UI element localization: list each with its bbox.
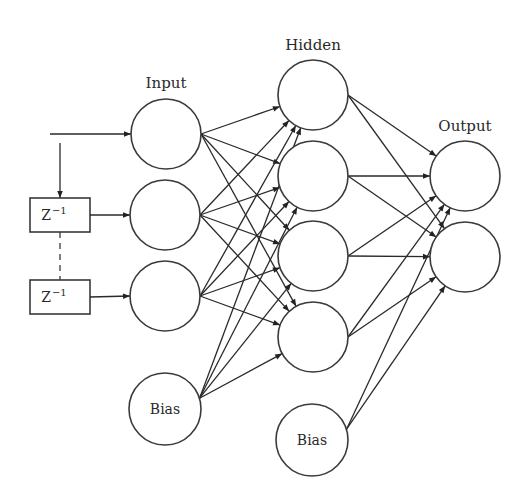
edge-in2-to-h4 [200,215,289,311]
input-node [130,261,200,331]
edge-in2-to-h2 [200,187,280,215]
delay-line: Z−1Z−1 [30,134,131,314]
output-node [430,222,500,292]
edge-h1-to-o1 [348,95,436,156]
edge-h3-to-o2 [348,256,430,257]
hidden-layer-label: Hidden [285,36,341,54]
hidden-bias-node: Bias [276,404,348,476]
input-node [131,99,201,169]
hidden-node [278,302,348,372]
edge-in1-to-h1 [201,107,280,134]
edge-h1-to-o2 [348,95,445,229]
delay-output-arrow [90,296,130,297]
hidden-node [278,221,348,291]
hidden-node [278,60,348,130]
edge-in3-to-h4 [200,296,280,325]
edge-in2-to-h3 [200,215,280,244]
edge-h3-to-o1 [348,196,436,256]
hidden-node [278,141,348,211]
edge-in2-to-h1 [200,120,289,215]
output-node [430,141,500,211]
output-layer-label: Output [438,117,491,135]
neural-network-diagram: Z−1Z−1 BiasBias Input Hidden Output [0,0,524,498]
input-layer-label: Input [146,74,187,92]
edge-in1-to-h2 [201,134,280,164]
edge-in_bias-to-h2 [200,207,298,398]
edge-h4-to-o1 [348,204,444,337]
bias-label: Bias [297,432,327,448]
edge-h2-to-o2 [348,176,436,237]
input-node [130,180,200,250]
bias-label: Bias [150,401,180,417]
edge-h4-to-o2 [348,277,436,337]
edge-in_bias-to-h4 [200,354,283,399]
input-bias-node: Bias [129,373,201,445]
edge-h_bias-to-o2 [347,286,446,429]
